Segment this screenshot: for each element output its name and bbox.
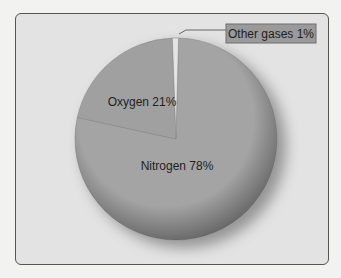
slice-label-oxygen: Oxygen 21% bbox=[108, 95, 177, 109]
slice-label-nitrogen: Nitrogen 78% bbox=[141, 159, 214, 173]
pie-chart: Other gases 1% Oxygen 21% Nitrogen 78% bbox=[0, 0, 341, 278]
callout-label-other-gases: Other gases 1% bbox=[228, 27, 314, 41]
callout-leader-line bbox=[179, 30, 226, 34]
